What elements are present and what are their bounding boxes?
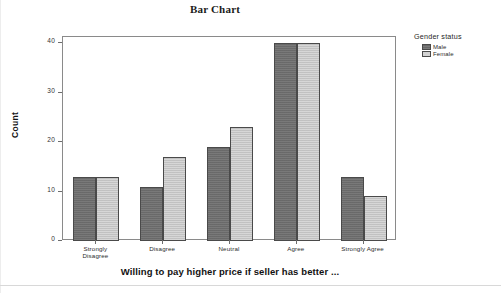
bar-female-agree — [297, 43, 320, 241]
plot-area — [62, 36, 396, 240]
x-tick-label-line: Disagree — [55, 252, 135, 259]
x-tick-mark — [95, 240, 96, 244]
bar-female-strongly-disagree — [96, 177, 119, 241]
chart-title: Bar Chart — [0, 3, 430, 15]
legend-label: Female — [433, 51, 454, 57]
page-edge-left — [0, 0, 1, 293]
legend-swatch-male — [422, 44, 431, 50]
legend-items: MaleFemale — [414, 44, 500, 57]
y-tick: 0 — [0, 240, 62, 241]
y-tick-mark — [58, 141, 62, 142]
x-tick-label: Strongly Agree — [323, 245, 403, 252]
legend-label: Male — [433, 44, 446, 50]
y-tick-label: 30 — [47, 87, 55, 94]
bar-male-strongly-disagree — [73, 177, 96, 241]
y-tick: 30 — [0, 92, 62, 93]
bar-male-agree — [274, 43, 297, 241]
legend-item-female[interactable]: Female — [422, 51, 500, 57]
bar-female-strongly-agree — [364, 196, 387, 241]
y-tick-mark — [58, 92, 62, 93]
y-tick-mark — [58, 42, 62, 43]
y-tick-label: 20 — [47, 136, 55, 143]
y-tick: 20 — [0, 141, 62, 142]
x-tick-mark — [363, 240, 364, 244]
bar-male-neutral — [207, 147, 230, 241]
x-tick-mark — [296, 240, 297, 244]
x-tick-mark — [162, 240, 163, 244]
page-edge-bottom — [0, 285, 501, 286]
bar-chart-screenshot: Bar Chart Count 010203040 StronglyDisagr… — [0, 0, 501, 293]
y-tick-label: 40 — [47, 37, 55, 44]
legend-title: Gender status — [414, 32, 500, 41]
bar-female-neutral — [230, 127, 253, 241]
y-tick: 10 — [0, 191, 62, 192]
x-tick-mark — [229, 240, 230, 244]
y-tick: 40 — [0, 42, 62, 43]
x-axis-title: Willing to pay higher price if seller ha… — [40, 266, 420, 277]
y-tick-label: 0 — [51, 235, 55, 242]
bar-female-disagree — [163, 157, 186, 241]
y-axis-title: Count — [10, 90, 20, 160]
y-tick-mark — [58, 191, 62, 192]
legend-item-male[interactable]: Male — [422, 44, 500, 50]
legend: Gender status MaleFemale — [414, 32, 500, 58]
y-tick-label: 10 — [47, 186, 55, 193]
legend-swatch-female — [422, 51, 431, 57]
bar-male-strongly-agree — [341, 177, 364, 241]
y-tick-mark — [58, 240, 62, 241]
x-tick-label-line: Strongly Agree — [323, 245, 403, 252]
bar-male-disagree — [140, 187, 163, 241]
